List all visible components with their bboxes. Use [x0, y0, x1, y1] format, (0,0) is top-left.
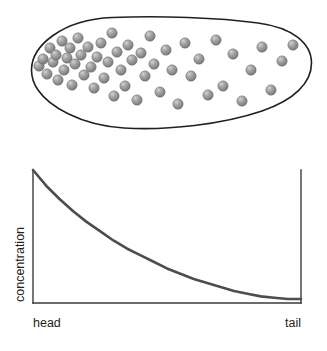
morphogen-gradient-figure: concentration head tail [0, 0, 327, 351]
concentration-decay-curve [33, 170, 301, 299]
concentration-chart-panel: concentration head tail [0, 0, 327, 351]
concentration-chart-svg: concentration head tail [0, 0, 327, 351]
x-axis-label-tail: tail [285, 316, 301, 330]
y-axis-title: concentration [13, 227, 27, 302]
x-axis-label-head: head [33, 316, 61, 330]
